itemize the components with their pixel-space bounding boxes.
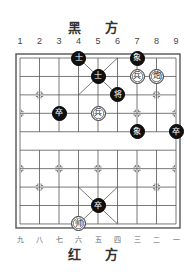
column-label: 四 xyxy=(111,234,125,244)
red-side-title: 红 方 xyxy=(0,244,196,263)
column-label: 三 xyxy=(130,234,144,244)
black-piece-象[interactable]: 象 xyxy=(130,51,145,66)
column-label: 五 xyxy=(91,234,105,244)
column-label: 六 xyxy=(72,234,86,244)
red-piece-兵[interactable]: 兵 xyxy=(91,106,106,121)
black-piece-象[interactable]: 象 xyxy=(130,124,145,139)
column-label: 一 xyxy=(169,234,183,244)
column-label: 七 xyxy=(52,234,66,244)
red-piece-炮[interactable]: 炮 xyxy=(149,69,164,84)
black-piece-士[interactable]: 士 xyxy=(71,51,86,66)
black-piece-卒[interactable]: 卒 xyxy=(52,106,67,121)
column-label: 八 xyxy=(33,234,47,244)
black-piece-士[interactable]: 士 xyxy=(91,69,106,84)
column-label: 九 xyxy=(13,234,27,244)
red-piece-兵[interactable]: 兵 xyxy=(130,69,145,84)
column-label: 二 xyxy=(150,234,164,244)
black-piece-卒[interactable]: 卒 xyxy=(169,124,184,139)
black-piece-卒[interactable]: 卒 xyxy=(91,198,106,213)
